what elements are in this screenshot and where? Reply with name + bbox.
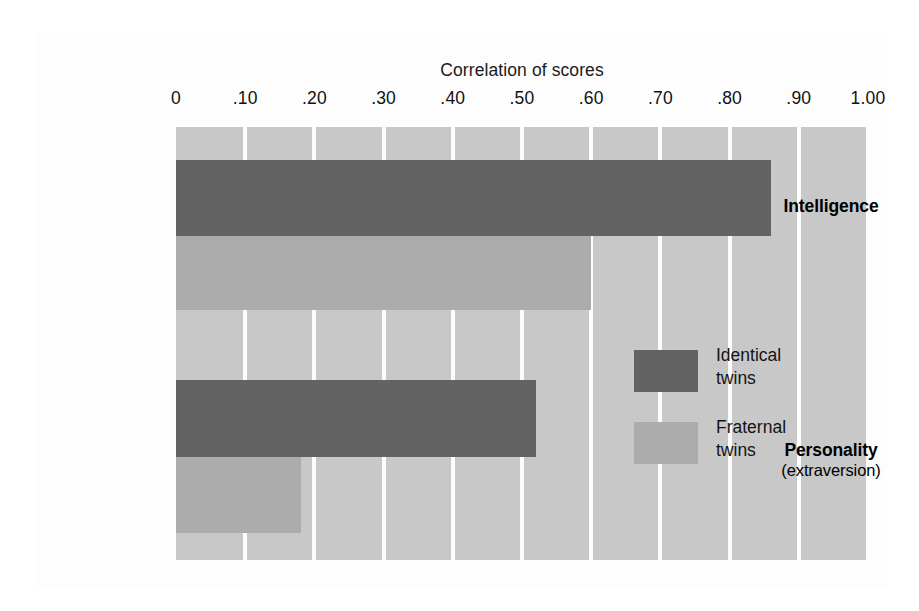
x-tick-label-6: .60 <box>551 88 631 109</box>
x-tick-label-10: 1.00 <box>828 88 908 109</box>
x-tick-label-2: .20 <box>274 88 354 109</box>
legend-label-identical: Identical twins <box>716 344 781 390</box>
x-tick-label-9: .90 <box>759 88 839 109</box>
x-axis-tick-labels: 0.10.20.30.40.50.60.70.80.901.00 <box>0 88 919 114</box>
legend-label-fraternal: Fraternal twins <box>716 416 786 462</box>
x-tick-label-5: .50 <box>482 88 562 109</box>
legend-swatch-identical-icon <box>634 350 698 392</box>
x-axis-title: Correlation of scores <box>176 60 868 81</box>
x-tick-label-8: .80 <box>690 88 770 109</box>
bar-personality-identical <box>176 380 536 457</box>
category-name: Intelligence <box>743 196 919 217</box>
category-label-intelligence: Intelligence <box>743 196 919 217</box>
bar-intelligence-fraternal <box>176 236 591 310</box>
x-tick-label-4: .40 <box>413 88 493 109</box>
chart-figure: Correlation of scores 0.10.20.30.40.50.6… <box>0 0 919 611</box>
gridline-10 <box>866 127 868 560</box>
x-tick-label-0: 0 <box>136 88 216 109</box>
x-tick-label-7: .70 <box>620 88 700 109</box>
legend: Identical twins Fraternal twins <box>634 344 854 488</box>
legend-item-identical-twins: Identical twins <box>634 344 854 416</box>
legend-item-fraternal-twins: Fraternal twins <box>634 416 854 488</box>
x-tick-label-1: .10 <box>205 88 285 109</box>
bar-personality-fraternal <box>176 457 301 533</box>
legend-swatch-fraternal-icon <box>634 422 698 464</box>
x-tick-label-3: .30 <box>344 88 424 109</box>
bar-intelligence-identical <box>176 160 771 236</box>
